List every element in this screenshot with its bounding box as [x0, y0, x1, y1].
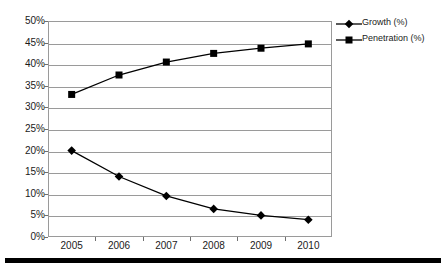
- y-axis-tick-label: 10%: [1, 189, 45, 199]
- square-marker: [163, 59, 170, 66]
- legend-item[interactable]: Penetration (%): [336, 30, 441, 46]
- series-square: [68, 40, 312, 98]
- square-marker: [258, 45, 265, 52]
- diamond-marker: [345, 20, 354, 29]
- y-axis-tick-label: 0%: [1, 232, 45, 242]
- square-marker: [305, 40, 312, 47]
- y-axis-tick-label: 30%: [1, 102, 45, 112]
- x-axis-tick-label: 2006: [94, 240, 144, 251]
- x-axis: 200520062007200820092010: [48, 240, 332, 260]
- x-axis-tick-mark: [95, 237, 96, 241]
- x-axis-tick-mark: [237, 237, 238, 241]
- y-axis-tick-mark: [44, 237, 48, 238]
- chart-screenshot: 50%45%40%35%30%25%20%15%10%5%0% 20052006…: [0, 0, 441, 271]
- y-axis-tick-label: 35%: [1, 81, 45, 91]
- y-axis-tick-label: 45%: [1, 38, 45, 48]
- diamond-marker: [67, 146, 76, 155]
- y-axis-tick-label: 25%: [1, 124, 45, 134]
- x-axis-tick-label: 2005: [47, 240, 97, 251]
- square-marker: [116, 72, 123, 79]
- diamond-marker: [162, 192, 171, 201]
- diamond-marker: [209, 205, 218, 214]
- y-axis-tick-label: 40%: [1, 59, 45, 69]
- series-line: [72, 151, 309, 220]
- diamond-marker-icon: [336, 16, 362, 28]
- x-axis-tick-label: 2010: [283, 240, 333, 251]
- x-axis-tick-label: 2009: [236, 240, 286, 251]
- x-axis-tick-label: 2007: [141, 240, 191, 251]
- legend-item[interactable]: Growth (%): [336, 14, 441, 30]
- y-axis-tick-label: 20%: [1, 146, 45, 156]
- series-line: [72, 44, 309, 95]
- x-axis-tick-label: 2008: [189, 240, 239, 251]
- y-axis: 50%45%40%35%30%25%20%15%10%5%0%: [0, 0, 45, 250]
- square-marker-icon: [336, 32, 362, 44]
- square-marker: [210, 50, 217, 57]
- chart-legend: Growth (%)Penetration (%): [336, 14, 441, 46]
- square-marker: [68, 91, 75, 98]
- diamond-marker: [115, 172, 124, 181]
- x-axis-tick-mark: [143, 237, 144, 241]
- legend-item-label: Growth (%): [362, 17, 408, 28]
- series-diamond: [67, 146, 312, 224]
- diamond-marker: [257, 211, 266, 220]
- bottom-rule: [5, 258, 441, 263]
- y-axis-tick-label: 50%: [1, 16, 45, 26]
- square-marker: [346, 37, 353, 44]
- series-layer: [48, 21, 332, 237]
- line-chart: 50%45%40%35%30%25%20%15%10%5%0% 20052006…: [0, 0, 441, 250]
- diamond-marker: [304, 215, 313, 224]
- x-axis-tick-mark: [285, 237, 286, 241]
- legend-item-label: Penetration (%): [362, 33, 425, 44]
- y-axis-tick-label: 15%: [1, 167, 45, 177]
- x-axis-tick-mark: [190, 237, 191, 241]
- y-axis-tick-label: 5%: [1, 210, 45, 220]
